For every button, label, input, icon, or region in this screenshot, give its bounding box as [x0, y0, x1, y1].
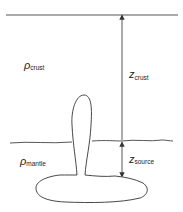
rho-mantle-label: ρmantle [19, 155, 46, 167]
crust-mantle-diagram: ρcrust zcrust ρmantle zsource [0, 0, 183, 212]
magma-plume [36, 95, 147, 203]
z-crust-label: zcrust [128, 68, 149, 81]
rho-crust-label: ρcrust [23, 59, 45, 71]
moho-boundary [10, 140, 173, 143]
z-source-label: zsource [128, 153, 154, 165]
